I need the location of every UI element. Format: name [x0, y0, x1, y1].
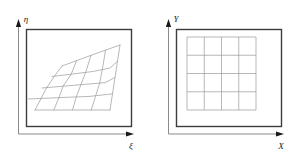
y-axis-arrowhead — [166, 19, 171, 27]
x-axis-label: X — [277, 141, 284, 151]
xi-axis-arrowhead — [126, 131, 134, 136]
parametric-frame — [27, 30, 132, 127]
eta-axis-arrowhead — [16, 19, 21, 27]
y-axis-label: Y — [173, 14, 179, 24]
xi-axis-label: ξ — [129, 141, 133, 151]
figure-root: η ξ — [0, 0, 300, 160]
diagram-canvas: η ξ — [0, 0, 300, 160]
physical-frame — [177, 30, 282, 127]
physical-space-panel: Y X — [166, 14, 284, 151]
eta-axis-label: η — [24, 14, 29, 24]
x-axis-arrowhead — [276, 131, 284, 136]
parametric-space-panel: η ξ — [16, 14, 134, 151]
